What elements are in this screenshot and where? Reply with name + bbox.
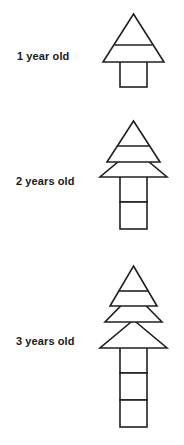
tree-growth-diagram: 1 year old 2 years old 3 years old	[0, 0, 184, 445]
foliage-tier	[110, 266, 157, 306]
foliage-tier	[107, 121, 160, 162]
tree-age-label-1-year: 1 year old	[17, 51, 69, 62]
trunk-segment	[120, 346, 147, 373]
foliage-tier	[103, 14, 164, 62]
trunk-segment	[120, 373, 147, 400]
trunk-segment	[120, 175, 147, 202]
tree-figure-2-years	[96, 118, 174, 236]
tree-figure-1-year	[96, 10, 174, 102]
tree-age-label-2-years: 2 years old	[16, 176, 75, 187]
tree-figure-3-years	[96, 263, 174, 435]
trunk-segment	[120, 400, 147, 427]
tree-age-label-3-years: 3 years old	[16, 336, 75, 347]
trunk-segment	[120, 202, 147, 229]
trunk-segment	[120, 60, 147, 87]
foliage-tier	[100, 320, 167, 348]
